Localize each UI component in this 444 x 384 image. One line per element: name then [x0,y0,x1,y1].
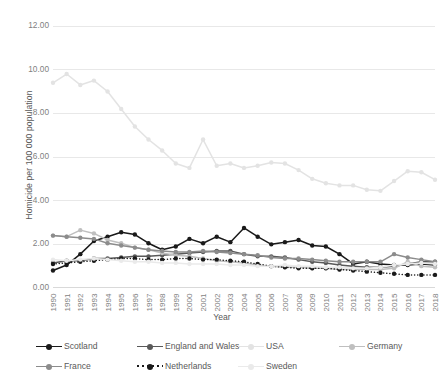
legend-item-england-and-wales[interactable]: England and Wales [137,336,239,356]
data-point [255,163,259,167]
data-point [283,239,287,243]
data-point [215,234,219,238]
legend-marker-icon [238,340,264,352]
legend-marker-icon [238,360,264,372]
legend-label: Netherlands [165,361,211,371]
data-point [378,188,382,192]
data-point [324,265,328,269]
data-point [105,89,109,93]
data-point [324,258,328,262]
data-point [215,257,219,261]
data-point [105,241,109,245]
data-point [174,244,178,248]
data-point [146,241,150,245]
data-point [201,261,205,265]
x-axis-title: Year [0,312,444,322]
legend-label: England and Wales [165,341,239,351]
data-point [146,137,150,141]
data-point [433,177,437,181]
data-point [392,271,396,275]
data-point [242,251,246,255]
data-point [392,178,396,182]
data-point [187,249,191,253]
data-point [406,168,410,172]
data-point [174,260,178,264]
data-point [160,248,164,252]
y-axis-tick-label: 4.00 [5,196,49,204]
data-point [283,256,287,260]
data-point [310,257,314,261]
data-point [378,259,382,263]
data-point [283,161,287,165]
data-point [64,258,68,262]
data-point [146,259,150,263]
legend-marker-icon [137,360,163,372]
data-point [187,261,191,265]
legend-marker-icon [36,340,62,352]
data-point [255,234,259,238]
data-point [174,256,178,260]
data-point [419,170,423,174]
data-point [269,160,273,164]
legend-label: USA [266,341,284,351]
data-point [201,241,205,245]
data-point [269,255,273,259]
data-point [160,148,164,152]
legend-row: FranceNetherlandsSweden [0,356,444,376]
data-point [187,256,191,260]
legend-label: France [64,361,91,371]
data-point [78,82,82,86]
legend-item-sweden[interactable]: Sweden [238,356,297,376]
legend-item-scotland[interactable]: Scotland [36,336,97,356]
data-point [296,237,300,241]
data-point [119,106,123,110]
data-point [146,247,150,251]
legend-label: Sweden [266,361,297,371]
data-point [365,266,369,270]
data-point [78,227,82,231]
data-point [406,272,410,276]
data-point [51,261,55,265]
y-axis-tick-label: 2.00 [5,239,49,247]
data-point [119,243,123,247]
data-point [187,236,191,240]
data-point [242,262,246,266]
data-point [419,272,423,276]
data-point [433,261,437,265]
legend-row: ScotlandEngland and WalesUSAGermany [0,336,444,356]
data-point [133,232,137,236]
data-point [351,183,355,187]
data-point [119,258,123,262]
y-axis-tick-label: 6.00 [5,152,49,160]
legend-marker-icon [339,340,365,352]
data-point [378,265,382,269]
data-point [406,261,410,265]
legend-item-france[interactable]: France [36,356,91,376]
data-point [51,257,55,261]
data-point [310,263,314,267]
legend-item-netherlands[interactable]: Netherlands [137,356,211,376]
data-point [337,259,341,263]
data-point [201,248,205,252]
legend-item-germany[interactable]: Germany [339,336,402,356]
data-point [78,251,82,255]
data-point [324,244,328,248]
data-point [255,263,259,267]
data-point [296,256,300,260]
data-point [64,234,68,238]
data-point [283,262,287,266]
homicide-rate-line-chart: Homicide per 100 000 population 0.002.00… [0,0,444,384]
data-point [51,233,55,237]
data-point [133,259,137,263]
legend-item-usa[interactable]: USA [238,336,284,356]
data-point [337,251,341,255]
data-point [51,268,55,272]
data-point [310,176,314,180]
data-point [242,165,246,169]
chart-legend: ScotlandEngland and WalesUSAGermanyFranc… [0,336,444,382]
data-point [269,242,273,246]
legend-label: Germany [367,341,402,351]
data-point [269,263,273,267]
data-point [174,249,178,253]
data-point [228,161,232,165]
